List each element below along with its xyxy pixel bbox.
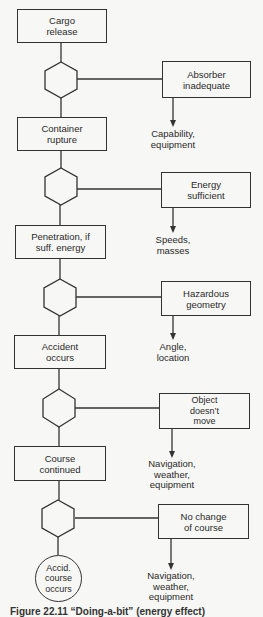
step-course-continued: Course continued [14,446,106,481]
and-gate-2 [45,168,77,205]
step-container-rupture: Container rupture [17,117,107,151]
condition-energy-sufficient: Energy sufficient [161,172,251,208]
and-gate-4 [43,389,75,427]
and-gate-1 [45,62,77,98]
factor-navigation-weather-equipment-2: Navigation, weather, equipment [136,571,206,603]
condition-hazardous-geometry: Hazardous geometry [161,281,251,316]
condition-absorber-inadequate: Absorber inadequate [162,61,251,98]
factor-capability-equipment: Capability, equipment [143,129,203,150]
and-gate-5 [42,500,74,537]
step-cargo-release: Cargo release [17,9,107,43]
and-gate-3 [44,279,76,316]
step-accident-occurs: Accident occurs [14,335,106,369]
end-event-accident-course: Accid. course occurs [35,555,82,602]
factor-angle-location: Angle, location [143,342,203,363]
step-penetration: Penetration, if suff. energy [15,225,106,259]
factor-speeds-masses: Speeds, masses [143,235,203,256]
condition-object-doesnt-move: Object doesn’t move [159,393,250,429]
condition-no-change-of-course: No change of course [158,504,249,539]
factor-navigation-weather-equipment-1: Navigation, weather, equipment [137,459,207,491]
figure-caption: Figure 22.11 “Doing-a-bit” (energy effec… [10,606,205,617]
